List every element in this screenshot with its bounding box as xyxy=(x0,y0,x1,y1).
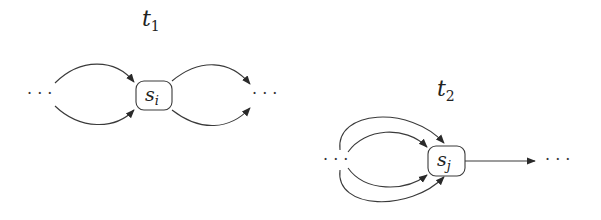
edge-in-upper-t1 xyxy=(55,64,134,83)
edge-in-lower-t1 xyxy=(55,106,134,125)
left-ellipsis-t1: · · · xyxy=(27,84,52,103)
edge-in-outer-upper-t2 xyxy=(340,117,444,150)
node-s-j: sj xyxy=(428,146,465,176)
left-ellipsis-t2: · · · xyxy=(323,150,348,169)
transition-diagram: t1 · · · si · · · t2 · · · xyxy=(0,0,601,220)
panel-t1-title: t1 xyxy=(142,6,160,34)
right-ellipsis-t1: · · · xyxy=(252,84,277,103)
edge-in-outer-lower-t2 xyxy=(340,170,444,202)
edge-in-inner-upper-t2 xyxy=(348,132,427,152)
panel-t1: t1 · · · si · · · xyxy=(27,6,277,126)
edge-in-inner-lower-t2 xyxy=(348,168,427,187)
node-s-i: si xyxy=(136,81,172,110)
panel-t2: t2 · · · sj · · · xyxy=(323,76,570,202)
edge-out-upper-t1 xyxy=(172,65,250,84)
right-ellipsis-t2: · · · xyxy=(545,150,570,169)
edge-out-lower-t1 xyxy=(172,108,250,126)
panel-t2-title: t2 xyxy=(437,76,455,104)
